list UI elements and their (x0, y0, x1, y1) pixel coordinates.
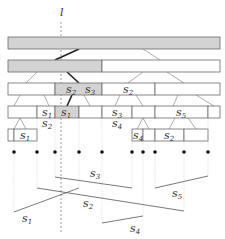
tree-node (208, 106, 220, 118)
tree-node (8, 83, 55, 95)
tree-level-2: s2 s3 s2 (8, 83, 220, 97)
tree-node (102, 60, 220, 72)
root-node (8, 37, 220, 49)
segment-s4 (102, 216, 143, 223)
edge (14, 95, 20, 106)
edge (169, 118, 175, 129)
segments: s1 s2 s3 s4 s5 (14, 167, 208, 236)
segment-s5 (155, 176, 208, 188)
endpoint-dot (141, 150, 145, 154)
edge (115, 95, 120, 106)
edge (128, 72, 143, 83)
edge (20, 118, 26, 129)
segment-label-s2: s2 (83, 197, 94, 211)
segment-tree-diagram: l s2 s3 s2 (0, 0, 225, 239)
sweep-line-label: l (60, 6, 64, 19)
edge (188, 118, 196, 129)
edge (143, 118, 149, 129)
segment-label-s5: s5 (172, 187, 183, 201)
edge (84, 95, 90, 106)
edge (26, 72, 37, 83)
tree-node (8, 129, 14, 141)
edge (137, 118, 143, 129)
tree-node (184, 129, 208, 141)
endpoint-dot (182, 150, 186, 154)
tree-level-4: s1 s4 s2 (8, 129, 208, 143)
edge-root-right (143, 49, 160, 60)
endpoint-dot (77, 150, 81, 154)
segment-s1 (14, 188, 79, 212)
edge (196, 95, 214, 106)
edge (173, 95, 178, 106)
endpoint-dot (100, 150, 104, 154)
endpoint-dot (153, 150, 157, 154)
edge (136, 95, 143, 106)
endpoint-dots (12, 150, 210, 154)
tree-node (79, 106, 102, 118)
edge-root-left (55, 49, 79, 60)
tree-node (143, 129, 155, 141)
segment-s2 (37, 188, 184, 211)
tree-node (155, 83, 220, 95)
endpoint-dot (12, 150, 16, 154)
edge (14, 118, 20, 129)
edge (167, 72, 184, 83)
endpoint-dot (53, 150, 57, 154)
segment-label-s1: s1 (22, 212, 32, 226)
edge-path (67, 72, 79, 83)
tree-node-highlighted (8, 60, 102, 72)
endpoint-dot (35, 150, 39, 154)
endpoint-dot (130, 150, 134, 154)
tree-level-1 (8, 60, 220, 72)
tree-node (8, 106, 37, 118)
edge (44, 95, 49, 106)
segment-label-s3: s3 (90, 167, 101, 181)
segment-label-s4: s4 (130, 222, 140, 236)
tree-level-0 (8, 37, 220, 49)
endpoint-dot (206, 150, 210, 154)
tree-node (132, 106, 155, 118)
